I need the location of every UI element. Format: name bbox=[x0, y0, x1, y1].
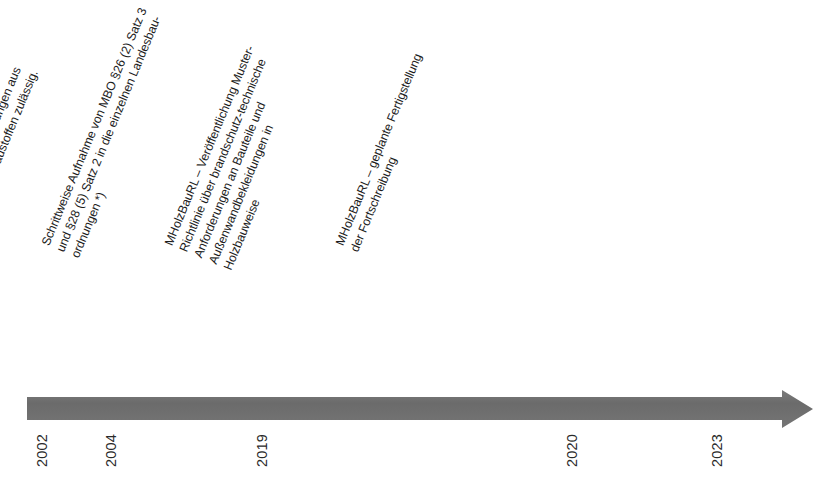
year-label-2019: 2019 bbox=[255, 434, 270, 467]
year-label-2020: 2020 bbox=[565, 434, 580, 467]
year-label-2002: 2002 bbox=[35, 434, 50, 467]
year-label-2004: 2004 bbox=[104, 434, 119, 467]
arrow-shape bbox=[27, 390, 813, 428]
timeline-arrow bbox=[27, 388, 813, 430]
year-label-2023: 2023 bbox=[710, 434, 725, 467]
timeline-figure: MBO 2002 – Einführung Gebäudeklasse 4 M-… bbox=[0, 0, 829, 485]
